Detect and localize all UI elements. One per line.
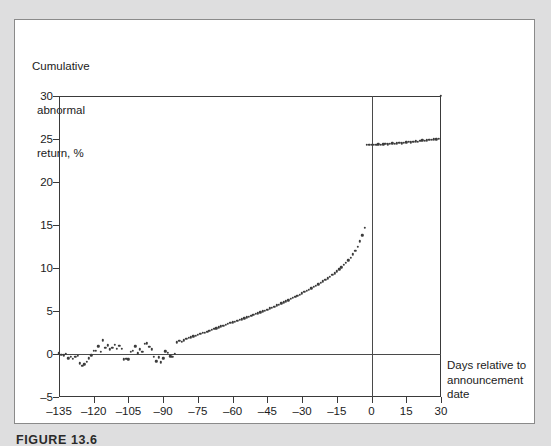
y-tick-mark: [53, 139, 59, 140]
y-tick-label: –5: [40, 391, 53, 403]
x-tick-label: 15: [400, 405, 413, 417]
x-axis-title-line2: announcement: [447, 373, 526, 388]
y-tick-label: 10: [40, 262, 53, 274]
x-tick-mark: [441, 397, 442, 403]
plot-area: –5051015202530 –135–120–105–90–75–60–45–…: [59, 96, 441, 397]
y-tick-label: 0: [47, 348, 53, 360]
x-tick-label: –135: [46, 405, 72, 417]
x-tick-label: –45: [258, 405, 277, 417]
x-tick-label: 0: [368, 405, 374, 417]
x-tick-label: –105: [116, 405, 142, 417]
x-tick-label: –90: [154, 405, 173, 417]
announcement-day-line: [372, 96, 373, 397]
x-tick-label: –120: [81, 405, 107, 417]
y-tick-label: 15: [40, 219, 53, 231]
y-tick-label: 25: [40, 133, 53, 145]
y-tick-mark: [53, 397, 59, 398]
x-tick-mark: [198, 397, 199, 403]
x-tick-label: –15: [327, 405, 346, 417]
figure-page: Cumulative abnormal return, % Days relat…: [0, 0, 551, 446]
y-tick-mark: [53, 96, 59, 97]
y-tick-mark: [53, 225, 59, 226]
x-tick-label: –75: [188, 405, 207, 417]
y-tick-label: 30: [40, 90, 53, 102]
y-tick-mark: [53, 268, 59, 269]
y-tick-mark: [53, 311, 59, 312]
x-axis-title-line3: date: [447, 387, 526, 402]
x-tick-mark: [372, 397, 373, 403]
x-tick-label: 30: [435, 405, 448, 417]
y-tick-label: 5: [47, 305, 53, 317]
figure-caption: FIGURE 13.6: [16, 433, 98, 446]
y-tick-label: 20: [40, 176, 53, 188]
x-tick-mark: [233, 397, 234, 403]
x-axis-title: Days relative to announcement date: [447, 358, 526, 402]
x-tick-mark: [302, 397, 303, 403]
x-tick-mark: [163, 397, 164, 403]
y-axis-title-line1: Cumulative: [32, 59, 90, 74]
y-tick-mark: [53, 182, 59, 183]
x-tick-label: –60: [223, 405, 242, 417]
x-axis-title-line1: Days relative to: [447, 358, 526, 373]
y-axis-ticks: –5051015202530: [21, 96, 53, 397]
x-tick-mark: [128, 397, 129, 403]
plot-frame: [59, 96, 441, 397]
x-tick-mark: [337, 397, 338, 403]
x-tick-mark: [406, 397, 407, 403]
x-tick-mark: [94, 397, 95, 403]
x-tick-mark: [267, 397, 268, 403]
zero-baseline: [59, 354, 441, 355]
figure-panel: Cumulative abnormal return, % Days relat…: [14, 19, 535, 424]
x-tick-label: –30: [292, 405, 311, 417]
